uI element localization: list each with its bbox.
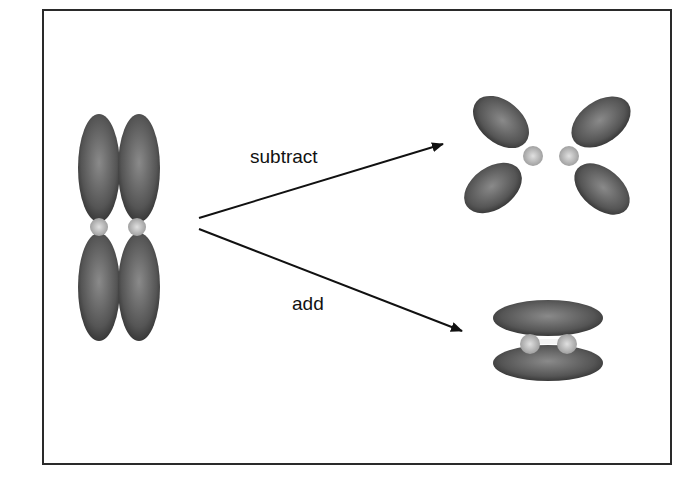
nucleus-right [557, 334, 577, 354]
add-arrow [199, 229, 462, 331]
subtract-label: subtract [250, 146, 318, 168]
lobe-right-top [118, 114, 160, 222]
nucleus-left [90, 218, 108, 236]
nucleus-left [520, 334, 540, 354]
lobe-left-bottom [78, 233, 120, 341]
lobe-left-top [78, 114, 120, 222]
orbital-diagram [0, 0, 697, 483]
bonding-orbitals [493, 300, 603, 381]
subtract-arrow [199, 144, 443, 218]
lobe-ll [455, 152, 532, 223]
antibonding-orbitals [455, 85, 640, 225]
initial-orbitals [78, 114, 160, 341]
add-label: add [292, 293, 324, 315]
nucleus-left [523, 146, 543, 166]
nucleus-right [559, 146, 579, 166]
nucleus-right [128, 218, 146, 236]
lobe-right-bottom [118, 233, 160, 341]
lobe-top [493, 300, 603, 336]
lobe-bottom [493, 345, 603, 381]
lobe-lr [565, 153, 640, 225]
